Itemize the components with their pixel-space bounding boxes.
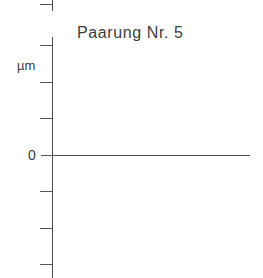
- y-axis-tick: [40, 264, 52, 265]
- y-axis-tick: [40, 118, 52, 119]
- y-axis-tick: [40, 82, 52, 83]
- zero-baseline: [41, 155, 250, 156]
- chart-title: Paarung Nr. 5: [77, 24, 184, 42]
- previous-chart-axis-fragment: [52, 0, 53, 11]
- chart-canvas: Paarung Nr. 5 µm 0: [0, 0, 263, 278]
- y-axis-tick: [40, 191, 52, 192]
- y-axis-tick: [40, 45, 52, 46]
- y-axis-unit-label: µm: [17, 58, 35, 73]
- y-axis-tick: [40, 228, 52, 229]
- previous-chart-tick: [40, 4, 52, 5]
- y-axis-line: [52, 37, 53, 278]
- zero-tick-label: 0: [28, 147, 36, 163]
